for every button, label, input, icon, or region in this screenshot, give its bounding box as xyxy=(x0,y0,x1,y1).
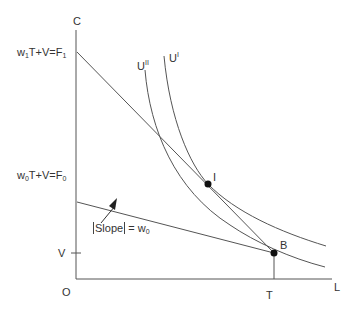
slope-abs-text: Slope xyxy=(93,222,125,234)
slope-annotation: Slope = w0 xyxy=(93,223,150,235)
x-axis-label: L xyxy=(334,282,340,293)
point-i-marker xyxy=(205,181,212,188)
f1-label-w: w xyxy=(17,46,25,58)
point-b-marker xyxy=(271,250,278,257)
budget-line-f1-label: w1T+V=F1 xyxy=(17,47,66,59)
origin-label: O xyxy=(62,287,71,298)
budget-line-f0-label: w0T+V=F0 xyxy=(17,170,66,182)
f1-label-sub2: 1 xyxy=(62,52,66,59)
uii-label-base: U xyxy=(137,60,145,72)
indifference-curve-uii xyxy=(145,70,325,267)
slope-equals: = w xyxy=(125,222,145,234)
uii-label-sup: II xyxy=(145,59,149,66)
v-tick-label: V xyxy=(58,248,65,259)
slope-sub: 0 xyxy=(146,228,150,235)
point-b-label: B xyxy=(280,240,287,251)
f0-label-w: w xyxy=(17,169,25,181)
indifference-curve-ui xyxy=(164,56,326,246)
curve-uii-label: UII xyxy=(137,59,149,72)
point-i-label: I xyxy=(213,172,216,183)
f1-label-mid: T+V=F xyxy=(29,46,63,58)
f0-label-mid: T+V=F xyxy=(29,169,63,181)
ui-label-base: U xyxy=(169,52,177,64)
ui-label-sup: I xyxy=(177,51,179,58)
f0-label-sub2: 0 xyxy=(62,175,66,182)
slope-arrow-head xyxy=(109,198,117,210)
y-axis-label: C xyxy=(73,16,81,27)
t-tick-label: T xyxy=(266,290,273,301)
curve-ui-label: UI xyxy=(169,51,179,64)
